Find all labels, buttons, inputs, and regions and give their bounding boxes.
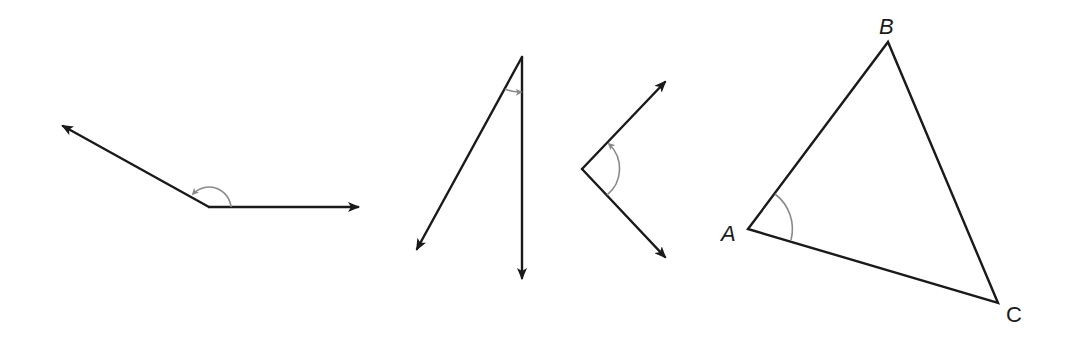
ray-down-right: [582, 169, 665, 257]
vertex-label-c: C: [1006, 302, 1022, 327]
angle-arc-arrow: [193, 187, 231, 207]
triangle-outline: [748, 42, 998, 303]
angle-a-arc: [775, 194, 792, 240]
geometry-figure: B A C: [0, 0, 1074, 346]
angle-acute-narrow: [417, 57, 522, 278]
angle-arc-arrow: [607, 144, 620, 195]
ray-up-left: [63, 126, 209, 207]
angle-right-ish: [582, 82, 665, 257]
vertex-label-a: A: [719, 221, 736, 246]
angle-obtuse: [63, 126, 358, 207]
vertex-label-b: B: [879, 14, 894, 39]
angle-arc-arrow: [505, 89, 521, 92]
ray-up-right: [582, 82, 665, 169]
triangle-abc: B A C: [719, 14, 1022, 327]
ray-down-left: [417, 57, 522, 249]
